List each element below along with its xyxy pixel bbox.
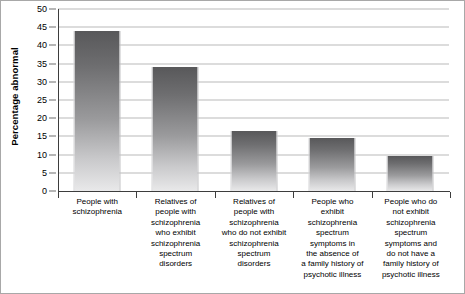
y-axis-tick-label: 30 [37,77,47,86]
x-axis-category-label-line: People who [295,197,369,207]
x-axis-category-label-line: Relatives of [217,197,291,207]
y-axis-tick-mark [49,45,56,46]
x-axis-category-label-line: schizophrenia [60,207,134,217]
x-axis-category-label-line: spectrum [138,249,212,259]
bar [152,67,199,191]
y-axis-tick-label: 10 [37,150,47,159]
x-axis-tick-mark [450,192,451,198]
bar-slot [293,9,371,191]
x-axis-category-label-line: people with [138,207,212,217]
y-axis-tick-mark [49,27,56,28]
x-axis-category-label: Relatives ofpeople withschizophreniawho … [215,197,293,291]
x-axis-category-label-line: people with [217,207,291,217]
x-axis-category-label: People who donot exhibitschizophreniaspe… [372,197,450,291]
y-axis-title-text: Percentage abnormal [9,47,20,146]
y-axis-tick-label: 0 [42,187,47,196]
x-axis-category-label-line: who do not exhibit [217,228,291,238]
bar [308,138,355,191]
x-axis-category-label-line: People who do [374,197,448,207]
x-axis-category-label-line: spectrum [217,249,291,259]
x-axis-category-label-line: schizophrenia [217,239,291,249]
y-axis-tick-label: 5 [42,168,47,177]
y-axis-tick-mark [49,154,56,155]
x-axis-category-label: People withschizophrenia [58,197,136,291]
bar-chart-figure: Percentage abnormal 50454035302520151050… [0,0,465,294]
bar-slot [136,9,214,191]
bar-slot [371,9,449,191]
x-axis-category-label-line: Relatives of [138,197,212,207]
y-axis-tick-mark [49,136,56,137]
x-axis-category-label-line: who exhibit [138,228,212,238]
y-axis-tick-labels: 50454035302520151050 [25,9,47,191]
x-axis-category-labels: People withschizophreniaRelatives ofpeop… [58,197,450,291]
y-axis-tick-label: 40 [37,41,47,50]
x-axis-category-label-line: do not have a [374,249,448,259]
x-axis-category-label-line: People with [60,197,134,207]
y-axis-tick-mark [49,100,56,101]
y-axis-tick-mark [49,191,56,192]
y-axis-tick-mark [49,81,56,82]
x-axis-category-label: People whoexhibitschizophreniaspectrumsy… [293,197,371,291]
x-axis-category-label-line: symptoms and [374,239,448,249]
y-axis-tick-label: 45 [37,23,47,32]
y-axis-tick-label: 25 [37,96,47,105]
y-axis-title: Percentage abnormal [3,1,25,191]
x-axis-category-label-line: schizophrenia [295,218,369,228]
y-axis-tick-mark [49,118,56,119]
x-axis-category-label-line: psychotic illness [295,270,369,280]
x-axis-category-label-line: a family history of [295,259,369,269]
x-axis-category-label-line: schizophrenia [138,239,212,249]
bar [386,156,433,191]
x-axis-category-label-line: schizophrenia [217,218,291,228]
x-axis-category-label-line: psychotic illness [374,270,448,280]
x-axis-category-label-line: family history of [374,259,448,269]
y-axis-tick-label: 50 [37,5,47,14]
bar [230,131,277,191]
x-axis-category-label-line: not exhibit [374,207,448,217]
x-axis-category-label-line: symptoms in [295,239,369,249]
bar [74,31,121,191]
x-axis-category-label: Relatives ofpeople withschizophreniawho … [136,197,214,291]
y-axis-tick-mark [49,172,56,173]
x-axis-category-label-line: schizophrenia [138,218,212,228]
bar-slot [58,9,136,191]
x-axis-category-label-line: schizophrenia [374,218,448,228]
y-axis-tick-label: 15 [37,132,47,141]
x-axis-category-label-line: exhibit [295,207,369,217]
plot-area: 50454035302520151050 [25,9,461,195]
x-axis-category-label-line: the absence of [295,249,369,259]
bar-series [58,9,449,191]
x-axis-category-label-line: spectrum [374,228,448,238]
x-axis-category-label-line: spectrum [295,228,369,238]
bar-slot [214,9,292,191]
y-axis-tick-label: 20 [37,114,47,123]
x-axis-category-label-line: disorders [138,259,212,269]
y-axis-tick-mark [49,63,56,64]
y-axis-tick-label: 35 [37,59,47,68]
y-axis-tick-mark [49,9,56,10]
x-axis-category-label-line: disorders [217,259,291,269]
